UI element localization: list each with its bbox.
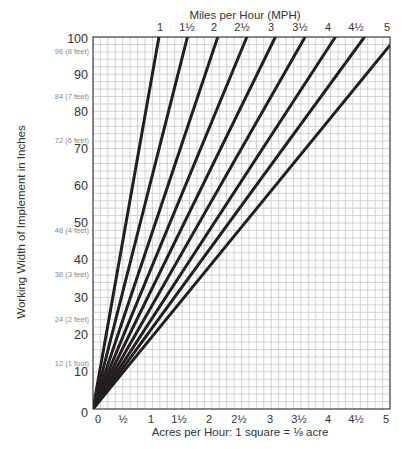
y-axis-title: Working Width of Implement in Inches [16, 125, 28, 318]
x-tick-3: 3 [267, 414, 273, 425]
y-feet-label-2: 24 (2 feet) [55, 316, 89, 324]
x-tick-2: 2 [206, 414, 212, 425]
x-tick-4: 4 [325, 414, 331, 425]
y-tick-30: 30 [74, 292, 88, 305]
mph-label-2-5: 2½ [234, 22, 249, 33]
y-feet-label-7: 84 (7 feet) [55, 93, 89, 101]
y-feet-label-4: 48 (4 feet) [55, 227, 89, 235]
y-tick-60: 60 [74, 180, 88, 193]
mph-label-4-5: 4½ [348, 22, 363, 33]
chart-container: Miles per Hour (MPH) 1 1½ 2 2½ 3 3½ 4 4½… [0, 0, 408, 449]
x-tick-3-5: 3½ [291, 414, 306, 425]
y-tick-0: 0 [81, 407, 88, 420]
y-tick-100: 100 [67, 33, 88, 46]
y-feet-label-3: 36 (3 feet) [55, 271, 89, 279]
mph-label-4: 4 [325, 22, 331, 33]
y-feet-label-1: 12 (1 foot) [55, 360, 89, 368]
mph-label-2: 2 [211, 22, 217, 33]
x-tick-1: 1 [148, 414, 154, 425]
x-tick-1-5: 1½ [171, 414, 186, 425]
x-tick-2-5: 2½ [231, 414, 246, 425]
x-tick-4-5: 4½ [348, 414, 363, 425]
mph-label-5: 5 [384, 22, 390, 33]
y-tick-20: 20 [74, 329, 88, 342]
y-tick-40: 40 [74, 254, 88, 267]
mph-label-1-5: 1½ [179, 22, 194, 33]
mph-label-3: 3 [268, 22, 274, 33]
x-tick-0-5: ½ [118, 414, 127, 425]
plot-area [0, 0, 408, 449]
y-feet-label-8: 96 (8 feet) [55, 48, 89, 56]
chart-title: Miles per Hour (MPH) [189, 10, 300, 22]
y-tick-80: 80 [74, 106, 88, 119]
x-tick-0: 0 [95, 414, 101, 425]
mph-label-3-5: 3½ [292, 22, 307, 33]
y-feet-label-6: 72 (6 feet) [55, 137, 89, 145]
x-axis-title: Acres per Hour: 1 square = ⅛ acre [152, 427, 329, 439]
mph-label-1: 1 [157, 22, 163, 33]
x-tick-5: 5 [383, 414, 389, 425]
y-tick-90: 90 [74, 69, 88, 82]
